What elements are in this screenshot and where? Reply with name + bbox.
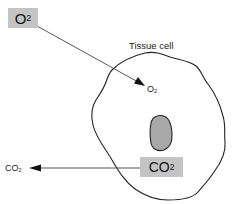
co2-destination-main: CO [5, 163, 19, 173]
o2-arrowhead-icon [134, 77, 145, 86]
nucleus [150, 116, 172, 151]
co2-destination-subscript: 2 [19, 167, 22, 173]
tissue-cell-label: Tissue cell [129, 41, 174, 51]
gas-exchange-diagram: O2 Tissue cell O2 CO2 CO2 [0, 0, 232, 204]
o2-source-main: O [15, 11, 27, 26]
o2-source-box: O2 [8, 8, 38, 28]
co2-destination-label: CO2 [5, 164, 22, 173]
co2-source-main: CO [149, 160, 170, 174]
o2-arrow-line [37, 26, 138, 82]
o2-destination-subscript: 2 [154, 88, 157, 94]
co2-arrowhead-icon [29, 165, 41, 172]
diagram-svg [0, 0, 232, 204]
co2-source-box: CO2 [140, 157, 183, 177]
o2-destination-main: O [147, 84, 154, 94]
o2-destination-label: O2 [147, 85, 157, 94]
